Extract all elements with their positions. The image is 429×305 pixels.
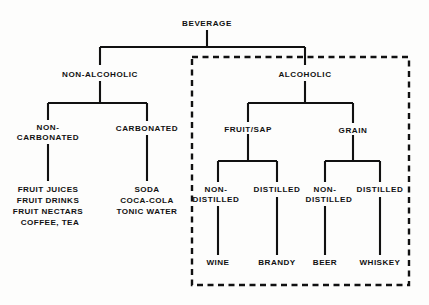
leaf-label-non-carbonated-2: FRUIT DRINKS [17,196,80,205]
leaf-label-non-carbonated-3: FRUIT NECTARS [13,207,84,216]
node-label-fruit-sap: FRUIT/SAP [224,125,272,134]
leaf-label-carbonated-1: SODA [134,185,159,194]
leaf-label-brandy: BRANDY [258,258,295,267]
node-label-carbonated: CARBONATED [116,124,178,133]
node-label-non-distilled-grain-line1: NON- [314,185,337,194]
node-label-non-carbonated-line2: CARBONATED [17,133,79,142]
alcoholic-region-dashed-border [192,57,409,285]
leaf-label-carbonated-2: COCA-COLA [120,196,174,205]
node-label-alcoholic: ALCOHOLIC [278,70,331,79]
leaf-label-non-carbonated-4: COFFEE, TEA [21,218,79,227]
leaf-label-carbonated-3: TONIC WATER [117,207,178,216]
node-label-distilled-fruit: DISTILLED [254,185,301,194]
leaf-label-beer: BEER [313,258,337,267]
leaf-label-wine: WINE [207,258,230,267]
node-label-distilled-grain: DISTILLED [357,185,404,194]
node-label-non-distilled-fruit-line1: NON- [205,185,228,194]
node-label-non-carbonated-line1: NON- [37,123,60,132]
node-label-non-distilled-grain-line2: DISTILLED [306,195,353,204]
beverage-classification-diagram: BEVERAGE NON-ALCOHOLIC ALCOHOLIC NON- CA… [0,0,429,305]
leaf-label-non-carbonated-1: FRUIT JUICES [18,185,79,194]
node-label-beverage: BEVERAGE [182,19,232,28]
node-label-grain: GRAIN [339,126,368,135]
node-label-non-alcoholic: NON-ALCOHOLIC [62,70,138,79]
leaf-label-whiskey: WHISKEY [360,258,401,267]
tree-diagram-svg: BEVERAGE NON-ALCOHOLIC ALCOHOLIC NON- CA… [0,0,429,305]
node-label-non-distilled-fruit-line2: DISTILLED [193,195,240,204]
